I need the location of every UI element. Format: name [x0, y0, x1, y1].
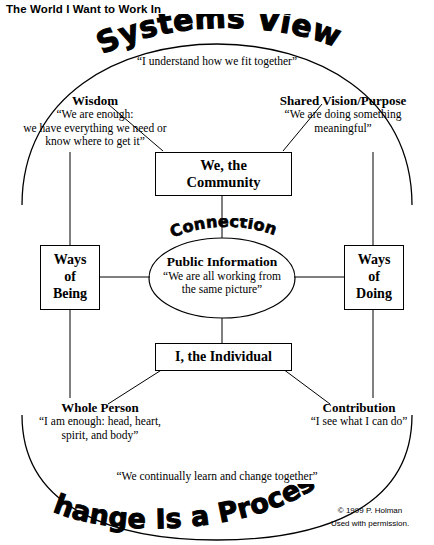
node-public-information-quote-line-1: “We are all working from — [152, 270, 292, 283]
label-wisdom-quote-line-1: “We are enough: — [0, 108, 190, 121]
node-ways-of-doing-line-2: of — [368, 269, 380, 286]
label-shared-vision-quote-line-1: “We are doing something — [252, 108, 434, 121]
node-we-the-community-line-2: Community — [186, 174, 260, 191]
node-ways-of-doing-line-1: Ways — [358, 252, 391, 269]
diagram-canvas: The World I Want to Work In Systems View… — [0, 0, 434, 545]
label-whole-person-quote-line-1: “I am enough: head, heart, — [0, 415, 200, 428]
credit-block: © 1999 P. Holman Used with permission. — [310, 505, 430, 531]
label-shared-vision-quote-line-2: meaningful” — [252, 122, 434, 135]
label-contribution-quote-line-1: “I see what I can do” — [284, 415, 434, 428]
connector-individual-to-contribution — [283, 369, 330, 404]
node-public-information-title: Public Information — [152, 254, 292, 270]
node-i-the-individual[interactable]: I, the Individual — [155, 343, 292, 371]
label-contribution-title: Contribution — [284, 400, 434, 415]
label-wisdom: Wisdom “We are enough: we have everythin… — [0, 93, 190, 149]
label-whole-person-title: Whole Person — [0, 400, 200, 415]
connector-individual-to-whole-person — [108, 369, 163, 404]
credit-copyright: © 1999 P. Holman — [310, 505, 430, 518]
node-public-information[interactable]: Public Information “We are all working f… — [152, 254, 292, 296]
label-shared-vision-title: Shared Vision/Purpose — [252, 93, 434, 108]
label-whole-person: Whole Person “I am enough: head, heart, … — [0, 400, 200, 442]
page-title: The World I Want to Work In — [6, 3, 161, 15]
label-wisdom-quote-line-3: know where to get it” — [0, 135, 190, 148]
label-shared-vision: Shared Vision/Purpose “We are doing some… — [252, 93, 434, 135]
quote-systems-view: “I understand how we fit together” — [0, 55, 434, 68]
node-we-the-community-line-1: We, the — [200, 157, 247, 174]
node-ways-of-being[interactable]: Ways of Being — [40, 245, 100, 310]
node-we-the-community[interactable]: We, the Community — [155, 152, 292, 196]
node-ways-of-being-line-1: Ways — [54, 252, 87, 269]
credit-permission: Used with permission. — [310, 518, 430, 531]
label-wisdom-title: Wisdom — [0, 93, 190, 108]
node-ways-of-doing[interactable]: Ways of Doing — [344, 245, 404, 310]
node-ways-of-being-line-3: Being — [53, 286, 87, 303]
label-whole-person-quote-line-2: spirit, and body” — [0, 429, 200, 442]
label-contribution: Contribution “I see what I can do” — [284, 400, 434, 429]
node-ways-of-being-line-2: of — [64, 269, 76, 286]
node-ways-of-doing-line-3: Doing — [356, 286, 392, 303]
node-i-the-individual-line-1: I, the Individual — [175, 349, 272, 366]
node-public-information-quote-line-2: the same picture” — [152, 283, 292, 296]
label-wisdom-quote-line-2: we have everything we need or — [0, 122, 190, 135]
quote-change-is-a-process: “We continually learn and change togethe… — [0, 470, 434, 482]
